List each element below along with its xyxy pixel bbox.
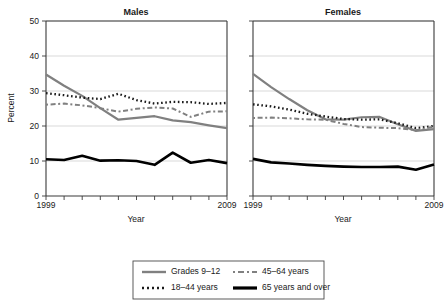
legend-label-18-44-years: 18–44 years xyxy=(171,282,218,292)
panel-title-males: Males xyxy=(123,7,148,17)
legend-label-65-years-and-over: 65 years and over xyxy=(262,282,330,292)
ytick-label-50: 50 xyxy=(30,16,40,26)
chart-svg: Males 5 xyxy=(0,0,448,306)
x-axis-title-males: Year xyxy=(127,214,144,224)
y-axis-title: Percent xyxy=(6,93,16,123)
ytick-label-40: 40 xyxy=(30,51,40,61)
x-axis-title-females: Year xyxy=(334,214,351,224)
ytick-label-20: 20 xyxy=(30,121,40,131)
xtick-label-2009-males: 2009 xyxy=(218,200,237,210)
xtick-label-1999-males: 1999 xyxy=(37,200,56,210)
xtick-label-2009-females: 2009 xyxy=(425,200,444,210)
ytick-label-30: 30 xyxy=(30,86,40,96)
chart-figure: Males 5 xyxy=(0,0,448,306)
legend-label-45-64-years: 45–64 years xyxy=(262,266,309,276)
chart-background xyxy=(0,0,448,306)
xtick-label-1999-females: 1999 xyxy=(244,200,263,210)
legend-label-grades-9-12: Grades 9–12 xyxy=(171,266,220,276)
ytick-label-10: 10 xyxy=(30,156,40,166)
panel-title-females: Females xyxy=(325,7,361,17)
